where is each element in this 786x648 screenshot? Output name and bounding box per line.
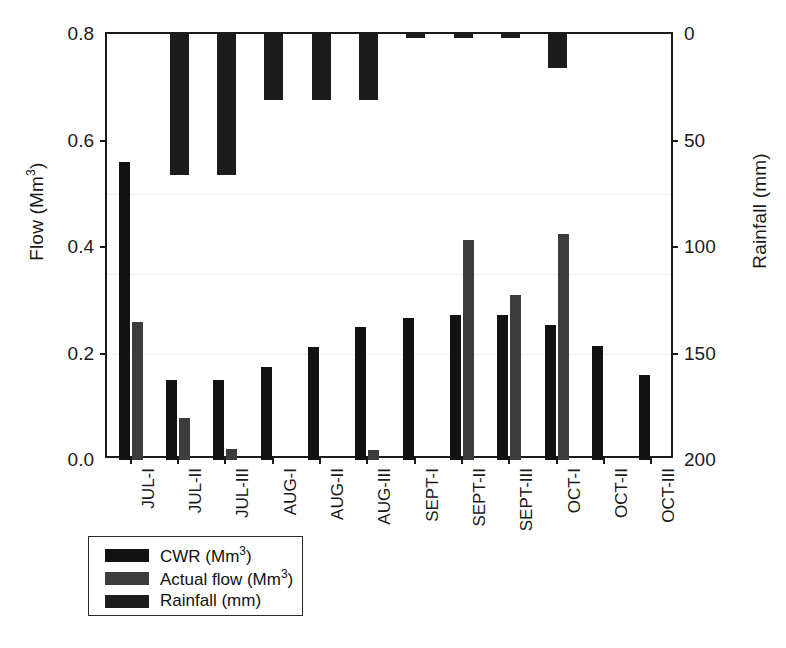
y-axis-right-tick-label: 200 [684, 449, 716, 471]
y-axis-left-tick-label: 0.0 [68, 449, 94, 471]
bar-actual-flow [558, 234, 569, 460]
y-axis-right-tick-label: 100 [684, 236, 716, 258]
bar-rainfall [406, 34, 425, 38]
chart-legend: CWR (Mm3)Actual flow (Mm3)Rainfall (mm) [88, 536, 303, 616]
y-axis-right-tick-label: 150 [684, 343, 716, 365]
bar-rainfall [359, 34, 378, 100]
y-axis-left-tick-label: 0.4 [68, 236, 94, 258]
bar-cwr [639, 375, 650, 460]
legend-item: CWR (Mm3) [105, 544, 302, 566]
y-axis-left-title-superscript: 3 [24, 169, 38, 176]
y-axis-left-title-main: Flow (Mm [26, 176, 47, 261]
bar-cwr [308, 347, 319, 460]
bar-rainfall [501, 34, 520, 38]
x-axis-tick-label: JUL-I [139, 468, 159, 509]
legend-label-superscript: 3 [239, 544, 246, 558]
legend-swatch [105, 595, 149, 608]
bar-cwr [450, 315, 461, 460]
x-axis-tick [650, 456, 652, 464]
y-axis-left-tick-label: 0.6 [68, 130, 94, 152]
x-axis-tick [319, 456, 321, 464]
x-axis-tick-label: JUL-II [186, 468, 206, 513]
bar-actual-flow [510, 295, 521, 460]
x-axis-tick [414, 456, 416, 464]
y-axis-left-tick-label: 0.8 [68, 23, 94, 45]
x-axis-tick [603, 456, 605, 464]
legend-label-main: CWR (Mm [160, 546, 239, 565]
bar-rainfall [170, 34, 189, 175]
y-axis-left-tick [100, 140, 107, 142]
y-axis-right-tick [671, 246, 678, 248]
bar-rainfall [548, 34, 567, 68]
y-axis-right-tick [671, 353, 678, 355]
bar-rainfall [454, 34, 473, 38]
legend-label-tail: ) [288, 569, 294, 588]
x-axis-tick-label: AUG-II [328, 468, 348, 520]
y-axis-left-tick-label: 0.2 [68, 343, 94, 365]
bar-cwr [592, 346, 603, 460]
x-axis-tick-label: JUL-III [233, 468, 253, 518]
y-axis-left-tick [100, 353, 107, 355]
legend-label-superscript: 3 [281, 567, 288, 581]
x-axis-tick-label: OCT-III [659, 468, 679, 523]
grid-line [107, 194, 671, 195]
legend-label-tail: ) [246, 546, 252, 565]
legend-item: Rainfall (mm) [105, 590, 302, 612]
bar-actual-flow [368, 450, 379, 460]
bar-cwr [355, 327, 366, 460]
bar-cwr [213, 380, 224, 460]
y-axis-right-tick-label: 50 [684, 130, 705, 152]
y-axis-left-tick [100, 246, 107, 248]
bar-rainfall [217, 34, 236, 175]
x-axis-tick-label: SEPT-III [517, 468, 537, 531]
bar-cwr [119, 162, 130, 460]
legend-item: Actual flow (Mm3) [105, 567, 302, 589]
bar-cwr [261, 367, 272, 460]
y-axis-right-title: Rainfall (mm) [749, 111, 771, 311]
plot-area: 0.00.20.40.60.8050100150200JUL-IJUL-IIJU… [105, 32, 673, 458]
chart-figure: Flow (Mm3) Rainfall (mm) 0.00.20.40.60.8… [0, 0, 786, 648]
bar-cwr [545, 325, 556, 460]
x-axis-tick-label: OCT-II [612, 468, 632, 518]
grid-line [107, 274, 671, 275]
y-axis-right-tick [671, 140, 678, 142]
legend-label: Actual flow (Mm3) [160, 567, 293, 590]
x-axis-tick-label: SEPT-II [470, 468, 490, 527]
y-axis-right-tick-label: 0 [684, 23, 695, 45]
bar-cwr [403, 318, 414, 460]
legend-label-main: Rainfall (mm) [160, 591, 261, 610]
bar-rainfall [312, 34, 331, 100]
bar-cwr [166, 380, 177, 460]
bar-actual-flow [132, 322, 143, 460]
x-axis-tick-label: SEPT-I [423, 468, 443, 522]
y-axis-left-title: Flow (Mm3) [24, 112, 47, 312]
y-axis-left-title-tail: ) [26, 162, 47, 169]
legend-label: CWR (Mm3) [160, 544, 252, 567]
x-axis-tick-label: OCT-I [565, 468, 585, 513]
bar-cwr [497, 315, 508, 460]
x-axis-tick-label: AUG-I [281, 468, 301, 515]
bar-actual-flow [463, 240, 474, 460]
grid-line [107, 354, 671, 355]
bar-actual-flow [179, 418, 190, 460]
bar-actual-flow [226, 449, 237, 460]
bar-rainfall [264, 34, 283, 100]
legend-label-main: Actual flow (Mm [160, 569, 281, 588]
x-axis-tick-label: AUG-III [375, 468, 395, 525]
x-axis-tick [272, 456, 274, 464]
legend-swatch [105, 549, 149, 562]
legend-label: Rainfall (mm) [160, 591, 261, 611]
legend-swatch [105, 572, 149, 585]
